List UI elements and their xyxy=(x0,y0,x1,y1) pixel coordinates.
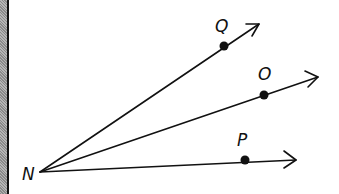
point-o xyxy=(260,91,269,100)
label-q: Q xyxy=(215,16,228,36)
angle-diagram: Q O P N xyxy=(0,0,339,194)
label-n: N xyxy=(22,164,35,184)
point-p xyxy=(241,156,250,165)
label-p: P xyxy=(237,130,248,150)
ray-np xyxy=(40,160,296,172)
arrowhead-q-icon xyxy=(246,24,259,36)
point-q xyxy=(220,42,229,51)
label-o: O xyxy=(258,64,271,84)
ray-no xyxy=(40,77,318,172)
